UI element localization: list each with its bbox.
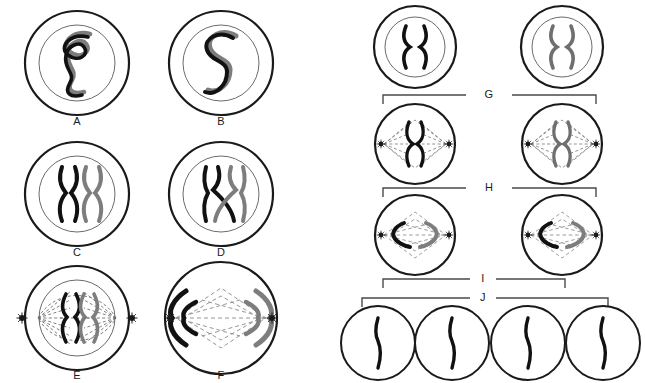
cell-i2	[522, 195, 602, 275]
centriole-right	[592, 140, 601, 149]
cell-label-d: D	[217, 246, 225, 258]
cell-h1	[375, 104, 455, 184]
cell-membrane	[25, 11, 129, 115]
cell-h2	[522, 104, 602, 184]
cell-membrane	[169, 142, 273, 246]
cell-label-f: F	[217, 369, 224, 381]
cell-membrane	[374, 6, 456, 88]
cell-j1	[341, 306, 415, 380]
centriole-right	[445, 140, 454, 149]
cell-i1	[375, 195, 455, 275]
centriole-right	[267, 313, 278, 324]
centriole-left	[165, 313, 176, 324]
cell-label-b: B	[217, 115, 225, 127]
cell-label-e: E	[73, 369, 81, 381]
cell-membrane	[521, 6, 603, 88]
meiosis-diagram: A B	[0, 0, 645, 383]
cell-g1	[374, 6, 456, 88]
centriole-left	[17, 313, 28, 324]
centriole-right	[127, 313, 138, 324]
bracket-label-h: H	[485, 181, 493, 193]
centriole-left	[524, 140, 533, 149]
cell-g2	[521, 6, 603, 88]
cell-label-c: C	[73, 246, 81, 258]
cell-j2	[415, 306, 489, 380]
centriole-right	[592, 231, 601, 240]
cell-membrane	[25, 142, 129, 246]
bracket-label-g: G	[485, 88, 494, 100]
bracket-label-i: I	[481, 272, 484, 284]
cell-label-a: A	[73, 115, 81, 127]
centriole-left	[377, 231, 386, 240]
cell-j4	[566, 306, 640, 380]
centriole-left	[377, 140, 386, 149]
cell-j3	[491, 306, 565, 380]
centriole-right	[445, 231, 454, 240]
bracket-label-j: J	[480, 291, 486, 303]
centriole-left	[524, 231, 533, 240]
